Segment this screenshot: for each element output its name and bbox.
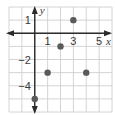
y-tick-label: 1 bbox=[25, 14, 31, 26]
y-tick-label: −4 bbox=[18, 80, 31, 92]
y-axis-down-arrow-icon bbox=[32, 106, 38, 114]
y-tick-label: −2 bbox=[18, 54, 31, 66]
y-axis-label: y bbox=[39, 4, 45, 16]
data-point bbox=[57, 43, 63, 49]
x-tick-label: 5 bbox=[96, 35, 102, 47]
x-axis-left-arrow-icon bbox=[6, 30, 14, 36]
data-point bbox=[44, 69, 50, 75]
data-point bbox=[32, 96, 38, 102]
x-tick-label: 3 bbox=[70, 35, 76, 47]
data-point bbox=[70, 17, 76, 23]
x-tick-label: 1 bbox=[45, 35, 51, 47]
x-axis-label: x bbox=[105, 35, 111, 47]
coordinate-plane: 1351−2−4 x y bbox=[0, 0, 115, 115]
data-point bbox=[83, 69, 89, 75]
